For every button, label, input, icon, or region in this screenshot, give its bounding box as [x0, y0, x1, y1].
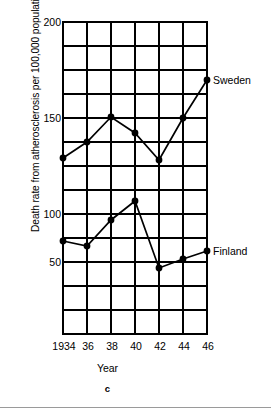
x-tick-36: 36 — [82, 340, 94, 352]
chart-figure: Death rate from atherosclerosis per 100,… — [0, 0, 271, 411]
x-tick-40: 40 — [130, 340, 142, 352]
bottom-divider — [0, 407, 271, 408]
x-tick-38: 38 — [106, 340, 118, 352]
figure-caption: c — [0, 383, 271, 394]
x-tick-42: 42 — [154, 340, 166, 352]
x-tick-1934: 1934 — [52, 340, 75, 352]
x-axis-tick-labels: 1934 36 38 40 42 44 46 — [0, 0, 271, 411]
x-tick-44: 44 — [178, 340, 190, 352]
x-tick-46: 46 — [202, 340, 214, 352]
x-axis-title: Year — [0, 362, 271, 374]
